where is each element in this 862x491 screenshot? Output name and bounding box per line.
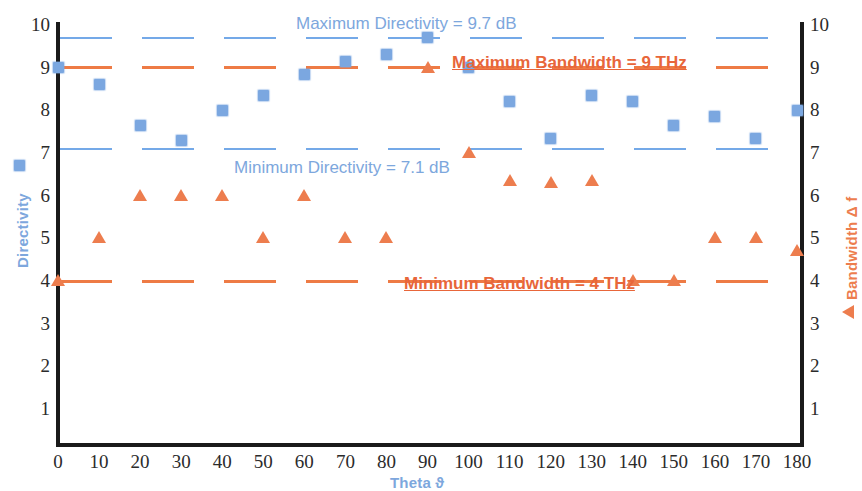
reference-line-min-directivity-segment — [306, 148, 358, 150]
directivity-point — [750, 133, 761, 144]
y-axis-right-tick-7: 7 — [810, 143, 850, 162]
bandwidth-point — [215, 189, 229, 201]
directivity-point — [94, 79, 105, 90]
x-axis-title: Theta ϑ — [390, 474, 444, 491]
reference-line-max-bandwidth-segment — [552, 66, 604, 69]
reference-line-max-directivity-segment — [306, 37, 358, 39]
bandwidth-point — [462, 146, 476, 158]
x-axis-tick-100: 100 — [447, 452, 491, 471]
min-directivity-label: Minimum Directivity = 7.1 dB — [234, 158, 450, 178]
reference-line-min-directivity-segment — [224, 148, 276, 150]
bandwidth-point — [421, 61, 435, 73]
reference-line-max-directivity-segment — [716, 37, 768, 39]
directivity-bandwidth-chart: 10987654321 10987654321 0102030405060708… — [0, 0, 862, 491]
x-axis-tick-30: 30 — [159, 452, 203, 471]
reference-line-max-directivity-segment — [552, 37, 604, 39]
reference-line-min-directivity-segment — [60, 148, 112, 150]
reference-line-min-directivity-segment — [142, 148, 194, 150]
bandwidth-point — [544, 176, 558, 188]
y-axis-left-tick-8: 8 — [12, 100, 50, 119]
reference-lines-layer — [0, 0, 862, 491]
x-axis-tick-70: 70 — [323, 452, 367, 471]
y-axis-left-title: Directivity — [14, 193, 31, 268]
x-axis-tick-10: 10 — [77, 452, 121, 471]
directivity-legend-square-icon — [14, 160, 25, 171]
directivity-point — [422, 32, 433, 43]
directivity-point — [217, 105, 228, 116]
reference-line-max-directivity-segment — [60, 37, 112, 39]
reference-line-max-bandwidth-segment — [306, 66, 358, 69]
reference-line-max-bandwidth-segment — [470, 66, 522, 69]
reference-line-max-directivity-segment — [388, 37, 440, 39]
bandwidth-point — [626, 274, 640, 286]
bandwidth-point — [256, 231, 270, 243]
x-axis-tick-50: 50 — [241, 452, 285, 471]
reference-line-min-bandwidth-segment — [60, 280, 112, 283]
directivity-point — [176, 135, 187, 146]
x-axis-tick-120: 120 — [529, 452, 573, 471]
y-axis-left-tick-9: 9 — [12, 58, 50, 77]
reference-line-max-bandwidth-segment — [388, 66, 440, 69]
x-axis-tick-150: 150 — [652, 452, 696, 471]
x-axis-tick-140: 140 — [611, 452, 655, 471]
directivity-point — [381, 49, 392, 60]
reference-line-min-bandwidth-segment — [224, 280, 276, 283]
reference-line-min-bandwidth-segment — [142, 280, 194, 283]
reference-line-max-directivity-segment — [470, 37, 522, 39]
y-axis-right-tick-10: 10 — [810, 15, 850, 34]
bandwidth-point — [667, 274, 681, 286]
y-axis-left-tick-1: 1 — [12, 399, 50, 418]
directivity-point — [299, 69, 310, 80]
directivity-point — [340, 56, 351, 67]
reference-line-min-directivity-segment — [470, 148, 522, 150]
x-axis-tick-160: 160 — [693, 452, 737, 471]
bandwidth-point — [503, 174, 517, 186]
data-points-layer — [0, 0, 862, 491]
x-axis-tick-170: 170 — [734, 452, 778, 471]
directivity-point — [627, 96, 638, 107]
x-axis-tick-60: 60 — [282, 452, 326, 471]
directivity-point — [463, 62, 474, 73]
bandwidth-point — [92, 231, 106, 243]
reference-line-max-bandwidth-segment — [634, 66, 686, 69]
bandwidth-point — [133, 189, 147, 201]
max-directivity-label: Maximum Directivity = 9.7 dB — [296, 14, 517, 34]
bandwidth-point — [338, 231, 352, 243]
bandwidth-point — [585, 174, 599, 186]
y-axis-left-tick-3: 3 — [12, 314, 50, 333]
y-axis-left-tick-10: 10 — [12, 15, 50, 34]
y-axis-right-line — [800, 22, 804, 446]
x-axis-tick-130: 130 — [570, 452, 614, 471]
reference-line-min-directivity-segment — [552, 148, 604, 150]
reference-line-max-bandwidth-segment — [142, 66, 194, 69]
reference-line-max-directivity-segment — [224, 37, 276, 39]
reference-line-min-directivity-segment — [388, 148, 440, 150]
bandwidth-point — [749, 231, 763, 243]
x-axis-tick-110: 110 — [488, 452, 532, 471]
reference-line-max-bandwidth-segment — [716, 66, 768, 69]
x-axis-tick-40: 40 — [200, 452, 244, 471]
bandwidth-point — [379, 231, 393, 243]
x-axis-line — [56, 443, 804, 447]
max-bandwidth-label: Maximum Bandwidth = 9 THz — [452, 53, 687, 73]
y-axis-left-tick-2: 2 — [12, 356, 50, 375]
directivity-point — [709, 111, 720, 122]
reference-line-max-directivity-segment — [142, 37, 194, 39]
y-axis-right-title: Bandwidth Δ f — [843, 197, 860, 300]
x-axis-tick-80: 80 — [364, 452, 408, 471]
directivity-point — [668, 120, 679, 131]
directivity-point — [258, 90, 269, 101]
directivity-point — [586, 90, 597, 101]
reference-line-min-directivity-segment — [634, 148, 686, 150]
x-axis-tick-20: 20 — [118, 452, 162, 471]
directivity-point — [135, 120, 146, 131]
x-axis-tick-90: 90 — [406, 452, 450, 471]
x-axis-tick-180: 180 — [775, 452, 819, 471]
reference-line-min-bandwidth-segment — [306, 280, 358, 283]
y-axis-right-tick-8: 8 — [810, 100, 850, 119]
bandwidth-point — [297, 189, 311, 201]
reference-line-min-bandwidth-segment — [388, 280, 440, 283]
y-axis-right-tick-9: 9 — [810, 58, 850, 77]
bandwidth-point — [708, 231, 722, 243]
y-axis-left-tick-4: 4 — [12, 271, 50, 290]
